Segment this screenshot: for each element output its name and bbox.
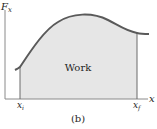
caption: (b) xyxy=(71,113,85,124)
y-axis-label: Fx xyxy=(0,1,12,14)
work-diagram: Fx x Work xi xf (b) xyxy=(0,0,157,129)
x-axis-label: x xyxy=(149,93,155,104)
x-initial-label: xi xyxy=(17,100,24,111)
work-label: Work xyxy=(65,62,92,73)
x-final-label: xf xyxy=(133,100,142,112)
